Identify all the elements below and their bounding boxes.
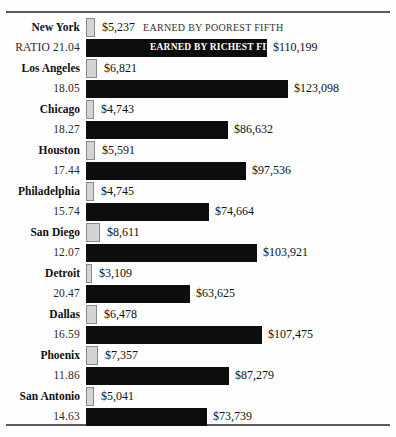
richest-fifth-value: $110,199: [273, 38, 318, 57]
city-label: Dallas: [0, 305, 80, 324]
city-label: Philadelphia: [0, 182, 80, 201]
poorest-fifth-value: $4,745: [101, 182, 134, 201]
ratio-label: 18.05: [0, 79, 80, 98]
city-label: Los Angeles: [0, 59, 80, 78]
top-rule: [6, 11, 390, 13]
richest-fifth-bar: [86, 244, 257, 262]
richest-fifth-line: 16.59$107,475: [0, 325, 396, 345]
poorest-fifth-value: $5,591: [102, 141, 135, 160]
poorest-fifth-line: Phoenix$7,357: [0, 346, 396, 366]
poorest-fifth-line: Philadelphia$4,745: [0, 182, 396, 202]
city-label: San Diego: [0, 223, 80, 242]
chart-row: Phoenix$7,35711.86$87,279: [0, 346, 396, 387]
richest-fifth-bar: [86, 408, 207, 426]
richest-fifth-line: 20.47$63,625: [0, 284, 396, 304]
chart-row: San Diego$8,61112.07$103,921: [0, 223, 396, 264]
richest-fifth-value: $123,098: [294, 79, 339, 98]
chart-row: Dallas$6,47816.59$107,475: [0, 305, 396, 346]
poorest-fifth-line: San Diego$8,611: [0, 223, 396, 243]
richest-fifth-line: 15.74$74,664: [0, 202, 396, 222]
chart-row: Houston$5,59117.44$97,536: [0, 141, 396, 182]
poorest-fifth-bar: [86, 100, 94, 119]
poorest-fifth-value: $6,821: [104, 59, 137, 78]
richest-fifth-bar: [86, 203, 209, 221]
chart-row: Los Angeles$6,82118.05$123,098: [0, 59, 396, 100]
ratio-label: 17.44: [0, 161, 80, 180]
poorest-fifth-bar: [86, 305, 97, 324]
richest-fifth-value: $73,739: [213, 407, 252, 426]
city-label: Chicago: [0, 100, 80, 119]
poorest-fifth-value: $3,109: [99, 264, 132, 283]
poorest-fifth-value: $4,743: [101, 100, 134, 119]
richest-fifth-legend: EARNED BY RICHEST FIFTH: [150, 38, 286, 57]
poorest-fifth-bar: [86, 223, 100, 242]
richest-fifth-bar: [86, 285, 190, 303]
poorest-fifth-line: Los Angeles$6,821: [0, 59, 396, 79]
poorest-fifth-value: $5,237: [102, 18, 135, 37]
richest-fifth-line: 11.86$87,279: [0, 366, 396, 386]
poorest-fifth-bar: [86, 182, 94, 201]
ratio-label: 12.07: [0, 243, 80, 262]
richest-fifth-line: 18.27$86,632: [0, 120, 396, 140]
poorest-fifth-bar: [86, 18, 95, 37]
ratio-label: 16.59: [0, 325, 80, 344]
richest-fifth-line: 17.44$97,536: [0, 161, 396, 181]
richest-fifth-value: $87,279: [235, 366, 274, 385]
richest-fifth-bar: [86, 162, 246, 180]
ratio-label: RATIO 21.04: [0, 38, 80, 57]
richest-fifth-value: $107,475: [268, 325, 313, 344]
richest-fifth-value: $86,632: [234, 120, 273, 139]
richest-fifth-line: 18.05$123,098: [0, 79, 396, 99]
ratio-label: 18.27: [0, 120, 80, 139]
city-label: Houston: [0, 141, 80, 160]
poorest-fifth-bar: [86, 141, 95, 160]
chart-row: Philadelphia$4,74515.74$74,664: [0, 182, 396, 223]
city-label: San Antonio: [0, 387, 80, 406]
poorest-fifth-line: Dallas$6,478: [0, 305, 396, 325]
poorest-fifth-line: New York$5,237EARNED BY POOREST FIFTH: [0, 18, 396, 38]
city-label: Detroit: [0, 264, 80, 283]
chart-row: San Antonio$5,04114.63$73,739: [0, 387, 396, 428]
richest-fifth-bar: [86, 367, 229, 385]
city-label: New York: [0, 18, 80, 37]
poorest-fifth-line: Detroit$3,109: [0, 264, 396, 284]
richest-fifth-line: 14.63$73,739: [0, 407, 396, 427]
ratio-label: 11.86: [0, 366, 80, 385]
poorest-fifth-bar: [86, 59, 97, 78]
chart-row: New York$5,237EARNED BY POOREST FIFTHRAT…: [0, 18, 396, 59]
poorest-fifth-value: $8,611: [107, 223, 140, 242]
poorest-fifth-line: Chicago$4,743: [0, 100, 396, 120]
poorest-fifth-value: $5,041: [101, 387, 134, 406]
chart-row: Detroit$3,10920.47$63,625: [0, 264, 396, 305]
ratio-label: 14.63: [0, 407, 80, 426]
poorest-fifth-value: $6,478: [104, 305, 137, 324]
poorest-fifth-bar: [86, 387, 94, 406]
ratio-label: 20.47: [0, 284, 80, 303]
chart-rows: New York$5,237EARNED BY POOREST FIFTHRAT…: [0, 18, 396, 428]
poorest-fifth-bar: [86, 264, 92, 283]
poorest-fifth-line: Houston$5,591: [0, 141, 396, 161]
poorest-fifth-bar: [86, 346, 98, 365]
richest-fifth-bar: [86, 326, 262, 344]
income-ratio-chart: New York$5,237EARNED BY POOREST FIFTHRAT…: [0, 0, 396, 437]
poorest-fifth-line: San Antonio$5,041: [0, 387, 396, 407]
richest-fifth-line: RATIO 21.04EARNED BY RICHEST FIFTH$110,1…: [0, 38, 396, 58]
poorest-fifth-value: $7,357: [105, 346, 138, 365]
richest-fifth-bar: [86, 80, 288, 98]
richest-fifth-value: $74,664: [215, 202, 254, 221]
richest-fifth-value: $103,921: [263, 243, 308, 262]
richest-fifth-line: 12.07$103,921: [0, 243, 396, 263]
richest-fifth-value: $97,536: [252, 161, 291, 180]
city-label: Phoenix: [0, 346, 80, 365]
richest-fifth-bar: [86, 121, 228, 139]
richest-fifth-value: $63,625: [196, 284, 235, 303]
chart-row: Chicago$4,74318.27$86,632: [0, 100, 396, 141]
poorest-fifth-legend: EARNED BY POOREST FIFTH: [143, 18, 284, 37]
ratio-label: 15.74: [0, 202, 80, 221]
